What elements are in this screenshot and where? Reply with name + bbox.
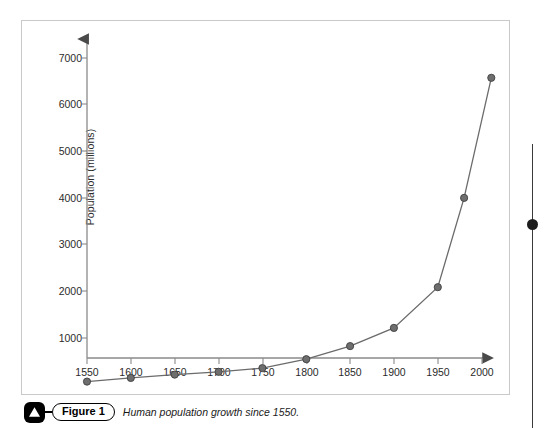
data-point	[303, 356, 310, 363]
data-point	[461, 194, 468, 201]
page-edge-line	[532, 144, 533, 428]
population-line-chart	[22, 21, 511, 396]
data-point	[488, 74, 495, 81]
data-line	[87, 78, 491, 382]
y-tick-marks	[82, 58, 87, 338]
figure-number-label: Figure 1	[52, 403, 115, 421]
chart-frame: Population (millions) 7000 6000 5000 400…	[21, 20, 510, 395]
triangle-icon	[24, 402, 45, 423]
data-point	[259, 365, 266, 372]
page-edge-dot	[527, 219, 538, 230]
data-point	[127, 374, 134, 381]
data-point	[215, 368, 222, 375]
data-point	[390, 324, 397, 331]
figure-container: Population (millions) 7000 6000 5000 400…	[0, 0, 545, 428]
caption-connector	[45, 411, 52, 413]
data-point	[434, 284, 441, 291]
data-point-markers	[83, 74, 495, 385]
caption-text: Human population growth since 1550.	[123, 406, 299, 418]
data-point	[83, 378, 90, 385]
data-point	[347, 343, 354, 350]
data-point	[171, 371, 178, 378]
figure-caption: Figure 1 Human population growth since 1…	[24, 400, 299, 424]
